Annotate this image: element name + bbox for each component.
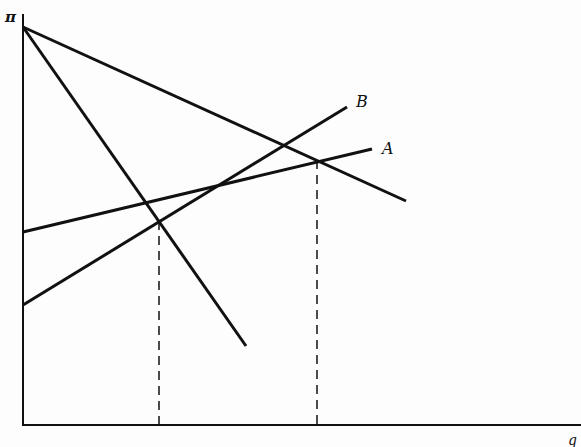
diagram-canvas (0, 0, 581, 447)
y-axis-label: π (5, 8, 16, 26)
line-b (23, 107, 347, 305)
curve-label-a: A (382, 139, 394, 158)
x-axis-label: q (568, 432, 577, 447)
diagram: π q B A (0, 0, 581, 447)
curve-label-b: B (356, 92, 368, 111)
shallow-line (23, 27, 406, 201)
line-a (23, 149, 372, 232)
